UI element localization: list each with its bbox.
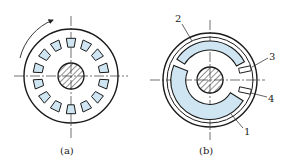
callout-4: 4 xyxy=(268,94,274,104)
slot xyxy=(39,49,51,61)
slot xyxy=(66,105,75,114)
slot xyxy=(33,63,43,73)
slot xyxy=(39,92,51,104)
slot xyxy=(81,101,92,112)
slot xyxy=(98,79,108,89)
sensor-window-upper xyxy=(239,66,252,73)
shaft-hub xyxy=(197,67,223,93)
slot xyxy=(50,101,61,112)
leader-3 xyxy=(252,58,268,67)
slot xyxy=(92,49,104,61)
shaft-hub xyxy=(58,63,84,89)
panel-b-disk xyxy=(150,20,268,140)
callout-3: 3 xyxy=(269,52,275,62)
caption-a: (a) xyxy=(60,146,74,156)
slot xyxy=(33,79,43,89)
callout-2: 2 xyxy=(175,14,181,24)
slot xyxy=(81,40,92,51)
caption-b: (b) xyxy=(199,146,213,156)
slot xyxy=(66,38,75,47)
panel-a-disk xyxy=(14,16,128,140)
callout-1: 1 xyxy=(244,127,250,137)
slot xyxy=(50,40,61,51)
sensor-window-lower xyxy=(239,87,252,94)
slot xyxy=(92,92,104,104)
encoder-diagram xyxy=(0,0,292,164)
slot xyxy=(98,63,108,73)
